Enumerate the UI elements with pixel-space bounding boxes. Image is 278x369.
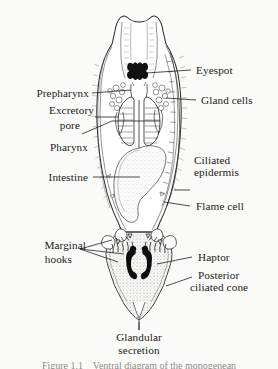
label-posterior-cone-line2: ciliated cone	[190, 281, 248, 293]
label-ciliated-epidermis-line2: epidermis	[194, 166, 239, 178]
label-prepharynx: Prepharynx	[1, 87, 89, 99]
label-marginal-hooks-line1: Marginal	[0, 239, 86, 251]
eyespot-cluster	[127, 62, 148, 80]
figure-caption: Figure 1.1 Ventral diagram of the monoge…	[0, 360, 278, 369]
label-intestine: Intestine	[0, 171, 88, 183]
label-excretory-pore-line1: Excretory	[0, 104, 94, 116]
label-glandular-secretion-line1: Glandular	[89, 331, 189, 343]
label-excretory-pore-line2: pore	[0, 119, 80, 131]
label-eyespot: Eyespot	[196, 64, 233, 76]
label-posterior-cone-line1: Posterior	[198, 269, 239, 281]
label-glandular-secretion-line2: secretion	[89, 344, 189, 356]
label-flame-cell: Flame cell	[196, 200, 244, 212]
label-marginal-hooks-line2: hooks	[0, 253, 72, 265]
label-pharynx: Pharynx	[0, 141, 88, 153]
label-haptor: Haptor	[198, 251, 230, 263]
label-ciliated-epidermis-line1: Ciliated	[194, 154, 230, 166]
label-gland-cells: Gland cells	[201, 94, 253, 106]
pharynx	[118, 97, 160, 148]
